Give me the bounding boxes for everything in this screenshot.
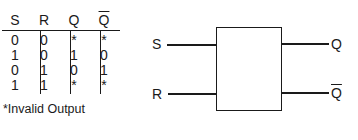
cell: 0 bbox=[33, 32, 55, 48]
footnote: *Invalid Output bbox=[3, 102, 85, 116]
input-wire-r bbox=[168, 93, 217, 95]
header-q-bar: Q bbox=[93, 12, 115, 28]
header-q: Q bbox=[63, 12, 85, 28]
header-s: S bbox=[4, 12, 26, 28]
cell: 1 bbox=[4, 47, 26, 63]
cell: 0 bbox=[63, 62, 85, 78]
cell: 1 bbox=[33, 77, 55, 93]
cell: * bbox=[63, 77, 85, 93]
cell: * bbox=[93, 77, 115, 93]
cell: 0 bbox=[93, 47, 115, 63]
input-label-r: R bbox=[152, 86, 162, 102]
output-wire-q-bar bbox=[281, 92, 329, 94]
cell: 1 bbox=[4, 77, 26, 93]
cell: 1 bbox=[33, 62, 55, 78]
cell: 0 bbox=[4, 62, 26, 78]
latch-block bbox=[216, 27, 282, 111]
output-wire-q bbox=[281, 43, 329, 45]
cell: * bbox=[93, 32, 115, 48]
cell: 1 bbox=[93, 62, 115, 78]
output-label-q: Q bbox=[331, 36, 342, 52]
header-r: R bbox=[33, 12, 55, 28]
output-label-q-bar: Q bbox=[331, 85, 342, 101]
cell: 0 bbox=[33, 47, 55, 63]
header-divider bbox=[2, 30, 120, 31]
cell: * bbox=[63, 32, 85, 48]
cell: 1 bbox=[63, 47, 85, 63]
input-label-s: S bbox=[152, 36, 161, 52]
cell: 0 bbox=[4, 32, 26, 48]
input-wire-s bbox=[167, 44, 217, 46]
